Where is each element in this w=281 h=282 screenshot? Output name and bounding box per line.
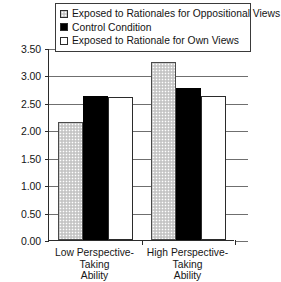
y-axis-tick (45, 49, 49, 50)
gridline-tick-stub (235, 214, 248, 215)
bar (151, 62, 176, 240)
gridline-tick-stub (235, 241, 248, 242)
x-axis-group-label: High Perspective-TakingAbility (135, 247, 240, 282)
legend-swatch-icon (60, 10, 68, 18)
legend-item[interactable]: Exposed to Rationale for Own Views (60, 34, 246, 48)
y-axis-tick (45, 241, 49, 242)
y-axis-tick (45, 186, 49, 187)
x-axis-group-label-line: Ability (135, 270, 240, 282)
legend-item[interactable]: Control Condition (60, 21, 246, 35)
y-axis-tick-label: 1.00 (0, 180, 41, 192)
bar (58, 122, 83, 240)
gridline-tick-stub (235, 104, 248, 105)
y-axis-tick (45, 214, 49, 215)
legend-swatch-icon (60, 37, 68, 45)
y-axis-tick-label: 1.50 (0, 153, 41, 165)
plot-area (48, 49, 234, 241)
y-axis-tick-label: 0.00 (0, 235, 41, 247)
x-axis-separator-tick (142, 240, 143, 245)
x-axis-group-label-line: Low Perspective-Taking (42, 247, 147, 270)
legend-swatch-icon (60, 23, 68, 31)
bar (108, 97, 133, 240)
y-axis-tick-label: 3.00 (0, 70, 41, 82)
gridline-tick-stub (235, 159, 248, 160)
legend-item-label: Exposed to Rationale for Own Views (72, 35, 239, 46)
bar (201, 96, 226, 240)
x-axis-group-label-line: High Perspective-Taking (135, 247, 240, 270)
y-axis-tick-label: 3.50 (0, 43, 41, 55)
y-axis-tick (45, 131, 49, 132)
y-axis-tick-label: 2.00 (0, 125, 41, 137)
gridline-tick-stub (235, 131, 248, 132)
legend-item-label: Exposed to Rationales for Oppositional V… (72, 8, 280, 19)
x-axis-group-label: Low Perspective-TakingAbility (42, 247, 147, 282)
y-axis-tick-label: 2.50 (0, 98, 41, 110)
gridline-tick-stub (235, 186, 248, 187)
chart-legend: Exposed to Rationales for Oppositional V… (55, 3, 251, 52)
legend-item[interactable]: Exposed to Rationales for Oppositional V… (60, 7, 246, 21)
gridline-tick-stub (235, 76, 248, 77)
bar (83, 96, 108, 240)
x-axis-group-label-line: Ability (42, 270, 147, 282)
y-axis-tick (45, 76, 49, 77)
legend-item-label: Control Condition (72, 22, 152, 33)
x-axis-end-tick (235, 240, 236, 245)
y-axis-tick (45, 159, 49, 160)
y-axis-tick-label: 0.50 (0, 208, 41, 220)
gridline (49, 76, 235, 77)
y-axis-tick (45, 104, 49, 105)
bar (176, 88, 201, 241)
